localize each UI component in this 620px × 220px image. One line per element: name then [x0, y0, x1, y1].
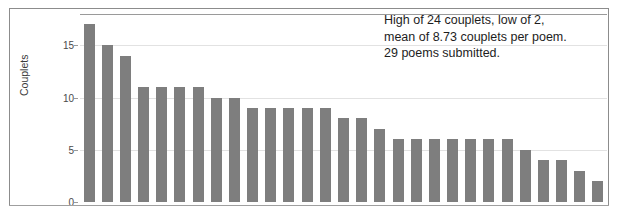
bar	[502, 139, 513, 202]
annotation-line-1: High of 24 couplets, low of 2,	[384, 12, 606, 29]
bar	[411, 139, 422, 202]
annotation-textbox: High of 24 couplets, low of 2, mean of 8…	[384, 12, 606, 62]
y-tick-mark-10	[74, 98, 78, 99]
bar	[574, 171, 585, 202]
y-axis-tick-labels: 051015	[48, 14, 74, 202]
bar	[102, 45, 113, 202]
bar	[138, 87, 149, 202]
bar	[483, 139, 494, 202]
bar	[265, 108, 276, 202]
bar	[538, 160, 549, 202]
bar	[229, 98, 240, 202]
bar	[174, 87, 185, 202]
bar	[556, 160, 567, 202]
bar	[393, 139, 404, 202]
y-tick-mark-5	[74, 150, 78, 151]
chart-screenshot: Couplets 051015 High of 24 couplets, low…	[0, 0, 620, 220]
bar	[302, 108, 313, 202]
y-tick-label-10: 10	[63, 92, 74, 103]
bar	[374, 129, 385, 202]
bar	[592, 181, 603, 202]
bar	[283, 108, 294, 202]
bar	[156, 87, 167, 202]
bar	[193, 87, 204, 202]
figure-bottom-edge	[9, 205, 609, 206]
bar	[447, 139, 458, 202]
bar	[520, 150, 531, 202]
bar	[120, 56, 131, 202]
y-tick-mark-15	[74, 45, 78, 46]
bar	[338, 118, 349, 202]
y-tick-label-15: 15	[63, 40, 74, 51]
annotation-line-2: mean of 8.73 couplets per poem.	[384, 29, 606, 46]
y-tick-mark-0	[74, 202, 78, 203]
y-axis-title: Couplets	[18, 55, 30, 96]
bar	[356, 118, 367, 202]
annotation-line-3: 29 poems submitted.	[384, 45, 606, 62]
bar	[84, 24, 95, 202]
bar	[465, 139, 476, 202]
bar	[320, 108, 331, 202]
bar	[429, 139, 440, 202]
bar	[247, 108, 258, 202]
bar	[211, 98, 222, 202]
